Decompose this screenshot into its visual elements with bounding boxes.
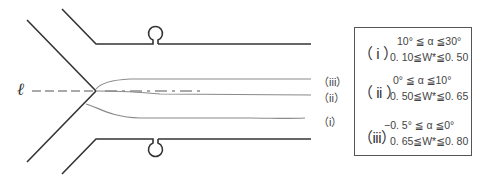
legend-width-range-i: 0. 10≦W*≦0. 50 — [390, 51, 468, 63]
legend-angle-range-ii: 0° ≦ α ≦10° — [393, 74, 451, 86]
legend-width-range-ii: 0. 50≦W*≦0. 65 — [390, 90, 468, 102]
upper-channel-wall — [62, 9, 152, 44]
legend-angle-range-iii: −0. 5° ≦ α ≦0° — [384, 119, 454, 131]
upper-diagonal-wall — [27, 20, 96, 91]
curve-label-iii: （iii） — [318, 73, 347, 89]
legend-entry-i: （ i ） 10° ≦ α ≦30° 0. 10≦W*≦0. 50 — [355, 33, 471, 67]
upper-notch-icon — [149, 26, 163, 44]
condition-legend: （ i ） 10° ≦ α ≦30° 0. 10≦W*≦0. 50 （ ii ）… — [354, 27, 472, 156]
axis-label-ell: ℓ — [17, 80, 24, 100]
legend-entry-ii: （ ii ） 0° ≦ α ≦10° 0. 50≦W*≦0. 65 — [355, 72, 471, 106]
curve-label-ii: （ii） — [318, 89, 345, 105]
lower-diagonal-wall — [27, 91, 96, 162]
curve-ii — [96, 91, 311, 95]
curve-i — [86, 104, 305, 118]
lower-channel-wall — [62, 139, 152, 174]
legend-width-range-iii: 0. 65≦W*≦0. 80 — [390, 135, 468, 147]
lower-notch-icon — [149, 139, 163, 157]
curve-iii — [96, 79, 311, 89]
legend-entry-iii: （iii） −0. 5° ≦ α ≦0° 0. 65≦W*≦0. 80 — [355, 117, 471, 151]
legend-angle-range-i: 10° ≦ α ≦30° — [397, 35, 461, 47]
curve-label-i: （i） — [318, 113, 342, 129]
